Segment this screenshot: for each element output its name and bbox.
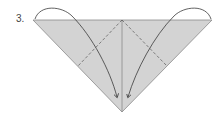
paper-triangle — [33, 20, 212, 112]
origami-fold-diagram — [0, 0, 222, 115]
